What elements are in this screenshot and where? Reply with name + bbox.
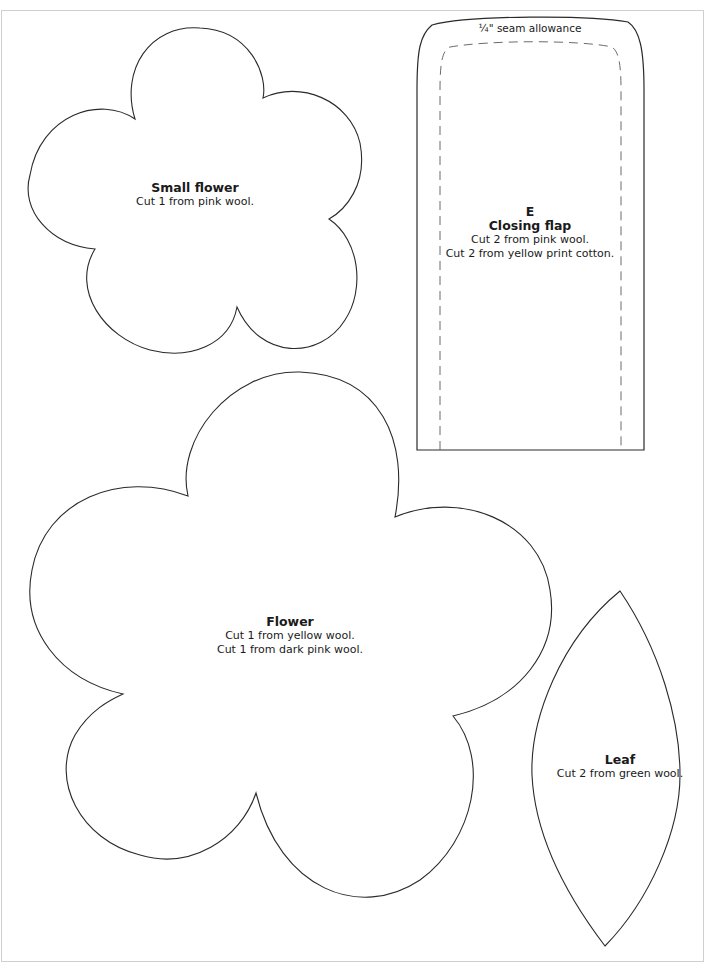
small-flower-title: Small flower — [120, 181, 270, 195]
closing-flap-title: Closing flap — [430, 219, 630, 233]
seam-allowance-note: ¼" seam allowance — [460, 22, 600, 34]
flower-label: Flower Cut 1 from yellow wool. Cut 1 fro… — [185, 615, 395, 657]
leaf-instruction: Cut 2 from green wool. — [545, 767, 695, 781]
small-flower-label: Small flower Cut 1 from pink wool. — [120, 181, 270, 209]
flower-instruction-1: Cut 1 from yellow wool. — [185, 629, 395, 643]
flower-instruction-2: Cut 1 from dark pink wool. — [185, 643, 395, 657]
closing-flap-instruction-1: Cut 2 from pink wool. — [430, 233, 630, 247]
leaf-label: Leaf Cut 2 from green wool. — [545, 753, 695, 781]
closing-flap-label: E Closing flap Cut 2 from pink wool. Cut… — [430, 205, 630, 261]
flower-title: Flower — [185, 615, 395, 629]
closing-flap-instruction-2: Cut 2 from yellow print cotton. — [430, 247, 630, 261]
closing-flap-letter: E — [430, 205, 630, 219]
pattern-shapes — [0, 0, 714, 974]
small-flower-instruction: Cut 1 from pink wool. — [120, 195, 270, 209]
leaf-title: Leaf — [545, 753, 695, 767]
